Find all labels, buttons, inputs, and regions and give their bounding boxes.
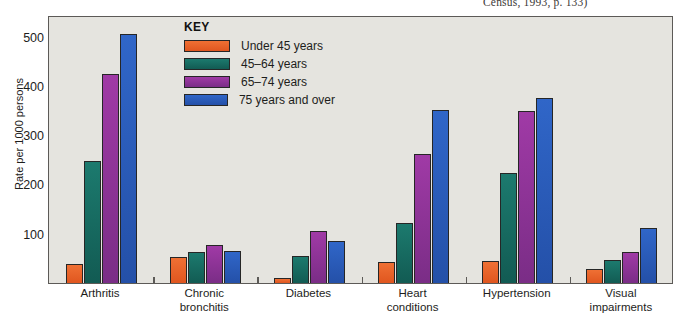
bar-group [482, 17, 553, 283]
legend-entries: Under 45 years45–64 years65–74 years75 y… [155, 38, 335, 108]
legend-color-swatch [184, 94, 228, 106]
bar[interactable] [414, 154, 431, 283]
bar[interactable] [84, 161, 101, 283]
bar-group [378, 17, 449, 283]
bar[interactable] [120, 34, 137, 283]
y-axis-title: Rate per 1000 persons [13, 49, 25, 219]
bar[interactable] [102, 74, 119, 283]
bar-group-bars [378, 17, 449, 283]
y-axis-tick-label: 100 [10, 228, 44, 242]
x-axis-tick [257, 277, 259, 283]
source-caption: Census, 1993, p. 133) [483, 0, 588, 8]
x-axis-category-label: Chronic bronchitis [144, 287, 264, 314]
x-axis-tick [466, 277, 468, 283]
bar[interactable] [274, 278, 291, 283]
x-axis-tick [570, 277, 572, 283]
legend-entry[interactable]: 75 years and over [155, 92, 335, 108]
bar[interactable] [604, 260, 621, 283]
x-axis-category-label: Heart conditions [353, 287, 473, 314]
bar[interactable] [378, 262, 395, 283]
bar[interactable] [622, 252, 639, 283]
bar-group-bars [586, 17, 657, 283]
bar[interactable] [536, 98, 553, 283]
legend-title: KEY [184, 20, 335, 34]
bar[interactable] [310, 231, 327, 283]
bars-layer [49, 17, 672, 283]
legend: KEY Under 45 years45–64 years65–74 years… [155, 20, 335, 110]
legend-entry[interactable]: 65–74 years [155, 74, 335, 90]
bar[interactable] [66, 264, 83, 283]
bar[interactable] [500, 173, 517, 283]
bar-group [586, 17, 657, 283]
plot-area [48, 16, 673, 284]
bar[interactable] [224, 251, 241, 283]
bar[interactable] [432, 110, 449, 283]
legend-entry-label: 65–74 years [241, 75, 307, 89]
legend-entry-label: 45–64 years [241, 57, 307, 71]
legend-entry[interactable]: 45–64 years [155, 56, 335, 72]
bar[interactable] [482, 261, 499, 283]
bar[interactable] [328, 241, 345, 283]
bar[interactable] [206, 245, 223, 283]
legend-entry-label: Under 45 years [241, 39, 323, 53]
bar-group [66, 17, 137, 283]
x-axis-category-labels: ArthritisChronic bronchitisDiabetesHeart… [48, 287, 673, 321]
x-axis-category-label: Diabetes [248, 287, 368, 301]
y-axis-tick-label: 500 [10, 31, 44, 45]
legend-color-swatch [184, 58, 230, 70]
bar-group-bars [66, 17, 137, 283]
bar[interactable] [396, 223, 413, 283]
bar[interactable] [188, 252, 205, 283]
bar[interactable] [518, 111, 535, 283]
x-axis-tick [153, 277, 155, 283]
bar[interactable] [640, 228, 657, 283]
bar[interactable] [292, 256, 309, 283]
bar[interactable] [586, 269, 603, 283]
x-axis-category-label: Hypertension [457, 287, 577, 301]
bar-group-bars [482, 17, 553, 283]
legend-entry[interactable]: Under 45 years [155, 38, 335, 54]
legend-color-swatch [184, 40, 230, 52]
x-axis-category-label: Arthritis [40, 287, 160, 301]
legend-color-swatch [184, 76, 230, 88]
legend-entry-label: 75 years and over [239, 93, 335, 107]
x-axis-category-label: Visual impairments [561, 287, 681, 314]
bar[interactable] [170, 257, 187, 283]
chart-root: Census, 1993, p. 133) 100200300400500 Ra… [0, 0, 681, 321]
x-axis-tick [362, 277, 364, 283]
